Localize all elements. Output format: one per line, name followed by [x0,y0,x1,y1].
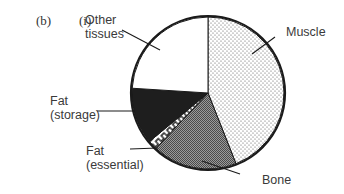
label-bone: Bone [262,173,291,187]
label-muscle: Muscle [286,25,326,39]
label-fat-essential-line1: Fat [86,144,104,158]
label-other-tissues-line1: Other [85,13,116,27]
label-other-tissues-line2: tissues [85,27,124,41]
pie-slices [132,17,284,169]
label-fat-storage-line2: (storage) [50,108,100,122]
figure: (b) (i) Other tissues Muscle Fat (storag… [0,0,344,194]
label-fat-essential-line2: (essential) [86,158,144,172]
slice-other-tissues [132,17,208,93]
label-fat-storage-line1: Fat [50,94,68,108]
question-part-label: (b) [36,13,51,29]
